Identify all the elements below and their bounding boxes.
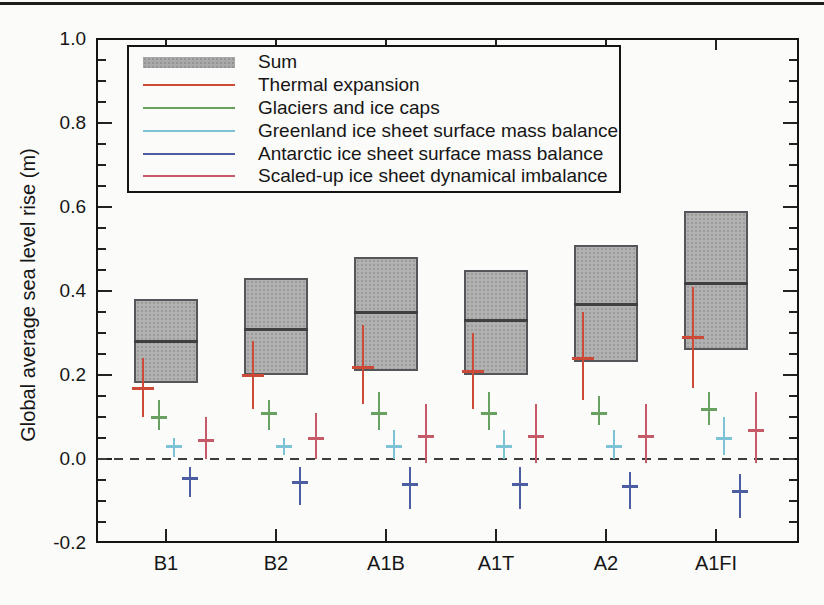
x-bottom-tick xyxy=(715,529,717,541)
legend-swatch xyxy=(143,153,235,155)
greenland-ice-sheet-surface-mass-balance-central-A1T xyxy=(496,445,512,448)
sum-central-line-A1FI xyxy=(684,282,748,285)
legend-swatch xyxy=(143,57,235,68)
y-minor-tick xyxy=(789,59,797,61)
y-minor-tick xyxy=(789,479,797,481)
y-tick-label: 0.0 xyxy=(18,449,86,469)
y-minor-tick xyxy=(98,164,106,166)
y-minor-tick xyxy=(789,521,797,523)
thermal-expansion-central-B1 xyxy=(132,387,154,390)
sum-swatch xyxy=(143,57,235,68)
scaled-up-ice-sheet-dynamical-imbalance-central-B1 xyxy=(198,439,214,442)
greenland-ice-sheet-surface-mass-balance-central-A1FI xyxy=(716,437,732,440)
scaled-up-ice-sheet-dynamical-imbalance-range-A2 xyxy=(645,404,647,463)
legend-item-label: Scaled-up ice sheet dynamical imbalance xyxy=(258,165,608,187)
glaciers-and-ice-caps-line-swatch xyxy=(143,107,235,109)
y-tick-label: 0.4 xyxy=(18,281,86,301)
sum-central-line-A1B xyxy=(354,311,418,314)
y-minor-tick xyxy=(789,311,797,313)
y-minor-tick xyxy=(98,269,106,271)
greenland-ice-sheet-surface-mass-balance-range-A1FI xyxy=(723,417,725,455)
legend-item-label: Glaciers and ice caps xyxy=(258,97,440,119)
x-bottom-tick xyxy=(385,529,387,541)
scaled-up-ice-sheet-dynamical-imbalance-central-A2 xyxy=(638,435,654,438)
scaled-up-ice-sheet-dynamical-imbalance-range-A1B xyxy=(425,404,427,463)
thermal-expansion-central-B2 xyxy=(242,374,264,377)
greenland-ice-sheet-surface-mass-balance-range-A1B xyxy=(393,430,395,459)
glaciers-and-ice-caps-central-A1FI xyxy=(701,408,717,411)
y-minor-tick xyxy=(789,80,797,82)
chart-legend: SumThermal expansionGlaciers and ice cap… xyxy=(127,45,621,193)
x-bottom-tick xyxy=(275,529,277,541)
x-tick-label-A2: A2 xyxy=(561,551,651,575)
legend-swatch xyxy=(143,107,235,109)
sum-central-line-A2 xyxy=(574,303,638,306)
x-tick-label-B2: B2 xyxy=(231,551,321,575)
glaciers-and-ice-caps-range-A1B xyxy=(378,392,380,430)
scaled-up-ice-sheet-dynamical-imbalance-range-A1T xyxy=(535,404,537,463)
antarctic-ice-sheet-surface-mass-balance-central-A1B xyxy=(402,483,418,486)
antarctic-ice-sheet-surface-mass-balance-line-swatch xyxy=(143,153,235,155)
legend-item-label: Greenland ice sheet surface mass balance xyxy=(258,120,618,142)
y-minor-tick xyxy=(98,395,106,397)
y-major-tick xyxy=(98,122,112,124)
antarctic-ice-sheet-surface-mass-balance-central-A1FI xyxy=(732,490,748,493)
greenland-ice-sheet-surface-mass-balance-range-A1T xyxy=(503,430,505,459)
legend-item: Glaciers and ice caps xyxy=(129,97,619,120)
greenland-ice-sheet-surface-mass-balance-line-swatch xyxy=(143,130,235,132)
sum-central-line-A1T xyxy=(464,319,528,322)
y-major-tick xyxy=(98,374,112,376)
scaled-up-ice-sheet-dynamical-imbalance-central-A1T xyxy=(528,435,544,438)
y-minor-tick xyxy=(98,227,106,229)
y-tick-label: -0.2 xyxy=(18,533,86,553)
y-minor-tick xyxy=(98,101,106,103)
antarctic-ice-sheet-surface-mass-balance-central-A2 xyxy=(622,485,638,488)
y-minor-tick xyxy=(98,353,106,355)
antarctic-ice-sheet-surface-mass-balance-range-A2 xyxy=(629,472,631,510)
y-major-tick xyxy=(783,290,797,292)
thermal-expansion-line-swatch xyxy=(143,84,235,86)
y-minor-tick xyxy=(789,332,797,334)
y-tick-label: 0.8 xyxy=(18,113,86,133)
scaled-up-ice-sheet-dynamical-imbalance-central-A1B xyxy=(418,435,434,438)
x-tick-label-A1T: A1T xyxy=(451,551,541,575)
y-minor-tick xyxy=(789,416,797,418)
y-minor-tick xyxy=(98,500,106,502)
sum-central-line-B2 xyxy=(244,328,308,331)
glaciers-and-ice-caps-central-B2 xyxy=(261,412,277,415)
y-tick-label: 0.2 xyxy=(18,365,86,385)
greenland-ice-sheet-surface-mass-balance-central-A2 xyxy=(606,445,622,448)
y-minor-tick xyxy=(98,332,106,334)
y-minor-tick xyxy=(98,143,106,145)
y-tick-label: 0.6 xyxy=(18,197,86,217)
y-minor-tick xyxy=(98,185,106,187)
y-tick-label: 1.0 xyxy=(18,29,86,49)
y-major-tick xyxy=(783,374,797,376)
page-top-rule xyxy=(0,2,824,5)
x-tick-label-B1: B1 xyxy=(121,551,211,575)
legend-item: Thermal expansion xyxy=(129,74,619,97)
y-major-tick xyxy=(98,206,112,208)
glaciers-and-ice-caps-central-A1T xyxy=(481,412,497,415)
scanned-figure: Global average sea level rise (m) 1.00.8… xyxy=(0,0,824,605)
scaled-up-ice-sheet-dynamical-imbalance-central-B2 xyxy=(308,437,324,440)
thermal-expansion-central-A2 xyxy=(572,357,594,360)
y-minor-tick xyxy=(789,269,797,271)
y-minor-tick xyxy=(98,59,106,61)
antarctic-ice-sheet-surface-mass-balance-central-A1T xyxy=(512,483,528,486)
legend-swatch xyxy=(143,84,235,86)
antarctic-ice-sheet-surface-mass-balance-central-B1 xyxy=(182,477,198,480)
y-minor-tick xyxy=(98,416,106,418)
glaciers-and-ice-caps-range-A2 xyxy=(598,396,600,425)
scaled-up-ice-sheet-dynamical-imbalance-range-B2 xyxy=(315,413,317,459)
scaled-up-ice-sheet-dynamical-imbalance-central-A1FI xyxy=(748,429,764,432)
legend-swatch xyxy=(143,175,235,177)
x-tick-label-A1B: A1B xyxy=(341,551,431,575)
glaciers-and-ice-caps-central-A1B xyxy=(371,412,387,415)
glaciers-and-ice-caps-range-A1T xyxy=(488,392,490,430)
x-bottom-tick xyxy=(605,529,607,541)
y-minor-tick xyxy=(789,500,797,502)
x-bottom-tick xyxy=(495,529,497,541)
y-minor-tick xyxy=(789,248,797,250)
glaciers-and-ice-caps-range-B1 xyxy=(158,400,160,429)
